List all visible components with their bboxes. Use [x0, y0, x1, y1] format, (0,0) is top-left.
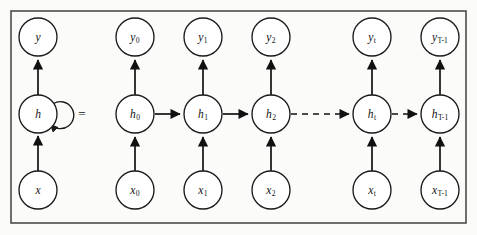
unfolded-sequence-group: y0h0x0y1h1x1y2h2x2ythtxtyT-1hT-1xT-1 [116, 18, 459, 209]
node-h-label: h [35, 108, 41, 120]
node-y-label: y [34, 31, 41, 44]
diagram-canvas: y h x = y0h0x0y1h1x1y2h2x2ythtxtyT-1hT-1… [0, 0, 477, 235]
folded-cell-group: y h x [19, 18, 74, 209]
equals-sign: = [78, 106, 85, 121]
rnn-unfolding-figure: y h x = y0h0x0y1h1x1y2h2x2ythtxtyT-1hT-1… [0, 0, 477, 235]
node-x-label: x [34, 184, 41, 196]
